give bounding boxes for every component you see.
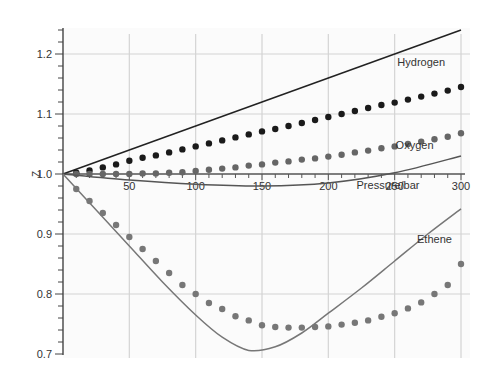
- hydrogen-data-point: [246, 131, 252, 137]
- ethene-data-point: [378, 314, 384, 320]
- hydrogen-data-point: [139, 155, 145, 161]
- ethene-data-point: [113, 222, 119, 228]
- y-tick-label: 0.9: [37, 228, 52, 240]
- y-tick-label: 1.2: [37, 48, 52, 60]
- oxygen-data-point: [259, 161, 265, 167]
- hydrogen-data-point: [391, 99, 397, 105]
- ethene-data-point: [365, 317, 371, 323]
- ethene-data-point: [338, 321, 344, 327]
- oxygen-data-point: [299, 156, 305, 162]
- oxygen-data-point: [285, 158, 291, 164]
- hydrogen-data-point: [445, 87, 451, 93]
- hydrogen-data-point: [100, 164, 106, 170]
- hydrogen-data-point: [378, 102, 384, 108]
- ethene-data-point: [246, 317, 252, 323]
- oxygen-data-point: [73, 171, 79, 177]
- ethene-data-point: [153, 258, 159, 264]
- y-axis-label: Z: [31, 171, 42, 177]
- hydrogen-data-point: [431, 90, 437, 96]
- hydrogen-data-point: [192, 143, 198, 149]
- hydrogen-data-point: [325, 114, 331, 120]
- hydrogen-data-point: [458, 84, 464, 90]
- label-oxygen: Oxygen: [396, 139, 434, 151]
- hydrogen-data-point: [285, 123, 291, 129]
- x-tick-label: 300: [452, 180, 470, 192]
- chart-svg: 0.70.80.91.01.11.2Z50100150200250300 Hyd…: [0, 0, 490, 381]
- hydrogen-data-point: [232, 134, 238, 140]
- ethene-data-point: [405, 305, 411, 311]
- ethene-data-point: [192, 291, 198, 297]
- ethene-data-point: [352, 320, 358, 326]
- hydrogen-data-point: [206, 140, 212, 146]
- ethene-data-point: [232, 313, 238, 319]
- oxygen-data-point: [272, 159, 278, 165]
- hydrogen-data-point: [153, 152, 159, 158]
- oxygen-data-point: [312, 155, 318, 161]
- oxygen-data-point: [139, 170, 145, 176]
- oxygen-data-point: [100, 171, 106, 177]
- y-tick-label: 1.1: [37, 108, 52, 120]
- ethene-data-point: [219, 306, 225, 312]
- ethene-data-point: [431, 291, 437, 297]
- ethene-data-point: [445, 282, 451, 288]
- hydrogen-data-point: [113, 161, 119, 167]
- ethene-data-point: [139, 246, 145, 252]
- hydrogen-data-point: [418, 93, 424, 99]
- hydrogen-data-point: [352, 108, 358, 114]
- label-ethene: Ethene: [417, 233, 452, 245]
- ethene-data-point: [458, 261, 464, 267]
- hydrogen-data-point: [259, 128, 265, 134]
- oxygen-data-point: [325, 153, 331, 159]
- ethene-data-point: [166, 270, 172, 276]
- hydrogen-data-point: [179, 146, 185, 152]
- oxygen-data-point: [166, 170, 172, 176]
- hydrogen-data-point: [338, 111, 344, 117]
- oxygen-data-point: [153, 170, 159, 176]
- oxygen-data-point: [179, 169, 185, 175]
- hydrogen-data-point: [405, 96, 411, 102]
- y-tick-label: 0.8: [37, 288, 52, 300]
- oxygen-data-point: [113, 171, 119, 177]
- hydrogen-data-point: [299, 120, 305, 126]
- ethene-data-point: [126, 234, 132, 240]
- label-pressure-bar: Pressure/bar: [357, 179, 420, 191]
- ethene-data-point: [299, 324, 305, 330]
- oxygen-data-point: [445, 134, 451, 140]
- hydrogen-data-point: [126, 158, 132, 164]
- oxygen-data-point: [378, 145, 384, 151]
- oxygen-data-point: [365, 147, 371, 153]
- hydrogen-data-point: [365, 105, 371, 111]
- x-tick-label: 100: [186, 180, 204, 192]
- ethene-data-point: [325, 323, 331, 329]
- ethene-data-point: [179, 282, 185, 288]
- oxygen-data-point: [352, 149, 358, 155]
- oxygen-data-point: [126, 171, 132, 177]
- oxygen-data-point: [206, 167, 212, 173]
- hydrogen-data-point: [166, 149, 172, 155]
- oxygen-data-point: [192, 168, 198, 174]
- oxygen-data-point: [458, 130, 464, 136]
- ethene-data-point: [259, 322, 265, 328]
- compressibility-chart: 0.70.80.91.01.11.2Z50100150200250300 Hyd…: [0, 0, 490, 381]
- oxygen-data-point: [219, 165, 225, 171]
- ethene-data-point: [206, 300, 212, 306]
- ethene-data-point: [272, 324, 278, 330]
- hydrogen-data-point: [272, 126, 278, 132]
- ethene-data-point: [418, 299, 424, 305]
- hydrogen-data-point: [219, 137, 225, 143]
- label-hydrogen: Hydrogen: [397, 56, 445, 68]
- oxygen-data-point: [338, 152, 344, 158]
- ethene-data-point: [391, 310, 397, 316]
- hydrogen-data-point: [312, 117, 318, 123]
- y-tick-label: 0.7: [37, 348, 52, 360]
- oxygen-data-point: [232, 164, 238, 170]
- oxygen-data-point: [246, 162, 252, 168]
- x-tick-label: 50: [123, 180, 135, 192]
- ethene-data-point: [285, 324, 291, 330]
